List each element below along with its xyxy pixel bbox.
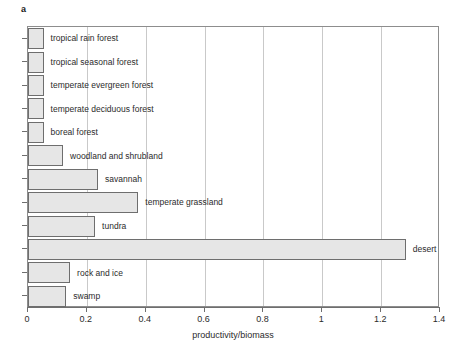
x-axis-tick — [145, 307, 146, 312]
y-axis-tick — [22, 85, 27, 86]
bar-row: savannah — [28, 169, 142, 190]
bar — [28, 239, 406, 260]
bar-label: savannah — [98, 175, 142, 184]
x-axis-tick-label: 0 — [24, 314, 29, 324]
bar — [28, 122, 44, 143]
bar-row: boreal forest — [28, 122, 98, 143]
panel-letter: a — [21, 4, 26, 14]
bar-label: rock and ice — [70, 269, 123, 278]
x-axis-tick-label: 1.4 — [433, 314, 446, 324]
y-axis-tick — [22, 155, 27, 156]
y-axis-tick — [22, 61, 27, 62]
bar-label: swamp — [66, 292, 100, 301]
bar-row: woodland and shrubland — [28, 145, 163, 166]
bar-row: tropical seasonal forest — [28, 52, 138, 73]
y-axis-tick — [22, 295, 27, 296]
y-axis-tick — [22, 131, 27, 132]
y-axis-tick — [22, 38, 27, 39]
bars-layer: tropical rain foresttropical seasonal fo… — [28, 27, 438, 306]
x-axis-ticks — [27, 307, 439, 313]
bar-row: tropical rain forest — [28, 28, 118, 49]
bar — [28, 262, 70, 283]
bar — [28, 52, 44, 73]
bar-label: tundra — [95, 222, 126, 231]
x-axis-tick — [321, 307, 322, 312]
x-axis-tick-label: 1 — [319, 314, 324, 324]
y-axis-tick — [22, 225, 27, 226]
bar-label: boreal forest — [44, 128, 98, 137]
chart-plot-area: tropical rain foresttropical seasonal fo… — [27, 26, 439, 307]
bar — [28, 169, 98, 190]
x-axis-tick — [86, 307, 87, 312]
bar — [28, 75, 44, 96]
y-axis-ticks — [22, 26, 27, 307]
x-axis-tick — [262, 307, 263, 312]
x-axis-title: productivity/biomass — [27, 330, 439, 340]
bar-row: tundra — [28, 216, 126, 237]
bar — [28, 286, 66, 307]
bar — [28, 98, 44, 119]
x-axis-tick-label: 0.8 — [256, 314, 269, 324]
bar — [28, 216, 95, 237]
x-axis-tick-label: 1.2 — [374, 314, 387, 324]
x-axis-tick-label: 0.6 — [197, 314, 210, 324]
x-axis-tick — [204, 307, 205, 312]
y-axis-tick — [22, 108, 27, 109]
x-axis-tick — [380, 307, 381, 312]
x-axis-tick-labels: 00.20.40.60.811.21.4 — [27, 314, 439, 328]
y-axis-tick — [22, 202, 27, 203]
bar — [28, 192, 138, 213]
x-axis-tick-label: 0.2 — [80, 314, 93, 324]
y-axis-tick — [22, 178, 27, 179]
bar-row: desert — [28, 239, 436, 260]
y-axis-tick — [22, 272, 27, 273]
bar-label: temperate deciduous forest — [44, 105, 154, 114]
y-axis-tick — [22, 248, 27, 249]
bar-label: desert — [406, 245, 437, 254]
bar-label: temperate evergreen forest — [44, 81, 154, 90]
bar-row: temperate evergreen forest — [28, 75, 153, 96]
x-axis-tick — [439, 307, 440, 312]
bar-row: temperate grassland — [28, 192, 223, 213]
bar-label: temperate grassland — [138, 198, 223, 207]
bar-row: swamp — [28, 286, 100, 307]
x-axis-tick-label: 0.4 — [138, 314, 151, 324]
bar-label: woodland and shrubland — [63, 152, 163, 161]
bar — [28, 145, 63, 166]
bar-row: rock and ice — [28, 262, 123, 283]
bar — [28, 28, 44, 49]
bar-label: tropical rain forest — [44, 34, 119, 43]
bar-row: temperate deciduous forest — [28, 98, 154, 119]
bar-label: tropical seasonal forest — [44, 58, 138, 67]
x-axis-tick — [27, 307, 28, 312]
